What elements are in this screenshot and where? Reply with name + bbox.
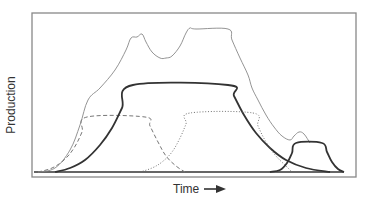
production-chart <box>0 0 369 208</box>
y-axis-label: Production <box>4 60 18 150</box>
plot-frame <box>32 13 356 177</box>
envelope-curve <box>38 28 310 172</box>
arrow-right-icon <box>204 184 226 194</box>
x-axis-label: Time <box>173 182 226 196</box>
